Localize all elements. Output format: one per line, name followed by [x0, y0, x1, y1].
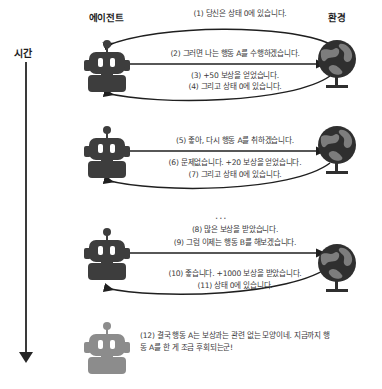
- message-5: (5) 좋아, 다시 행동 A를 취하겠습니다.: [140, 135, 330, 147]
- message-2: (2) 그러면 나는 행동 A를 수행하겠습니다.: [140, 48, 330, 60]
- time-axis-line: [25, 62, 27, 354]
- message-9: (9) 그럼 이제는 행동 B를 해보겠습니다.: [140, 237, 330, 249]
- message-7: (7) 그리고 상태 0에 있습니다.: [140, 169, 330, 181]
- message-8: (8) 많은 보상을 받았습니다.: [140, 224, 330, 236]
- arrow-msg-1: [106, 29, 330, 46]
- robot-icon: [84, 126, 130, 178]
- message-12: (12) 결국 행동 A는 보상과는 관련 없는 모양이네. 지금까지 행동 A…: [140, 330, 330, 353]
- message-3: (3) +50 보상을 얻었습니다.: [140, 70, 330, 82]
- message-6: (6) 문제없습니다. +20 보상을 얻었습니다.: [136, 157, 334, 169]
- robot-icon: [84, 228, 130, 280]
- down-arrow-icon: [19, 352, 33, 363]
- message-11: (11) 상태 0에 있습니다.: [140, 280, 330, 292]
- message-10: (10) 좋습니다. +1000 보상을 받았습니다.: [136, 268, 334, 280]
- agent-column-label: 에이전트: [76, 10, 136, 24]
- robot-icon: [84, 40, 130, 92]
- time-axis-label: 시간: [14, 45, 31, 60]
- message-1: (1) 당신은 상태 0에 있습니다.: [150, 8, 330, 20]
- ellipsis: ...: [215, 210, 228, 221]
- rl-sequence-diagram: 시간 에이전트 환경: [0, 0, 382, 389]
- message-4: (4) 그리고 상태 0에 있습니다.: [140, 81, 330, 93]
- robot-icon: [84, 322, 130, 374]
